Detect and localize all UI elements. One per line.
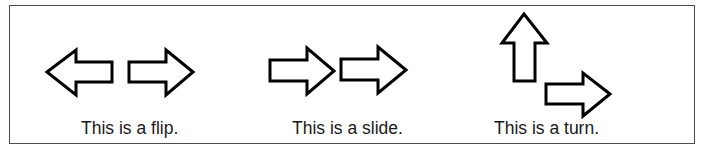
slide-right-arrow-1-icon [270,48,334,94]
flip-caption: This is a flip. [81,118,178,138]
flip-left-arrow-icon [47,50,112,95]
turn-caption: This is a turn. [494,118,599,138]
turn-right-arrow-icon [546,73,610,116]
transformations-diagram: This is a flip. This is a slide. This is… [0,0,719,151]
flip-right-arrow-icon [129,50,193,95]
slide-caption: This is a slide. [292,118,403,138]
slide-right-arrow-2-icon [341,47,406,93]
turn-up-arrow-icon [502,14,547,81]
